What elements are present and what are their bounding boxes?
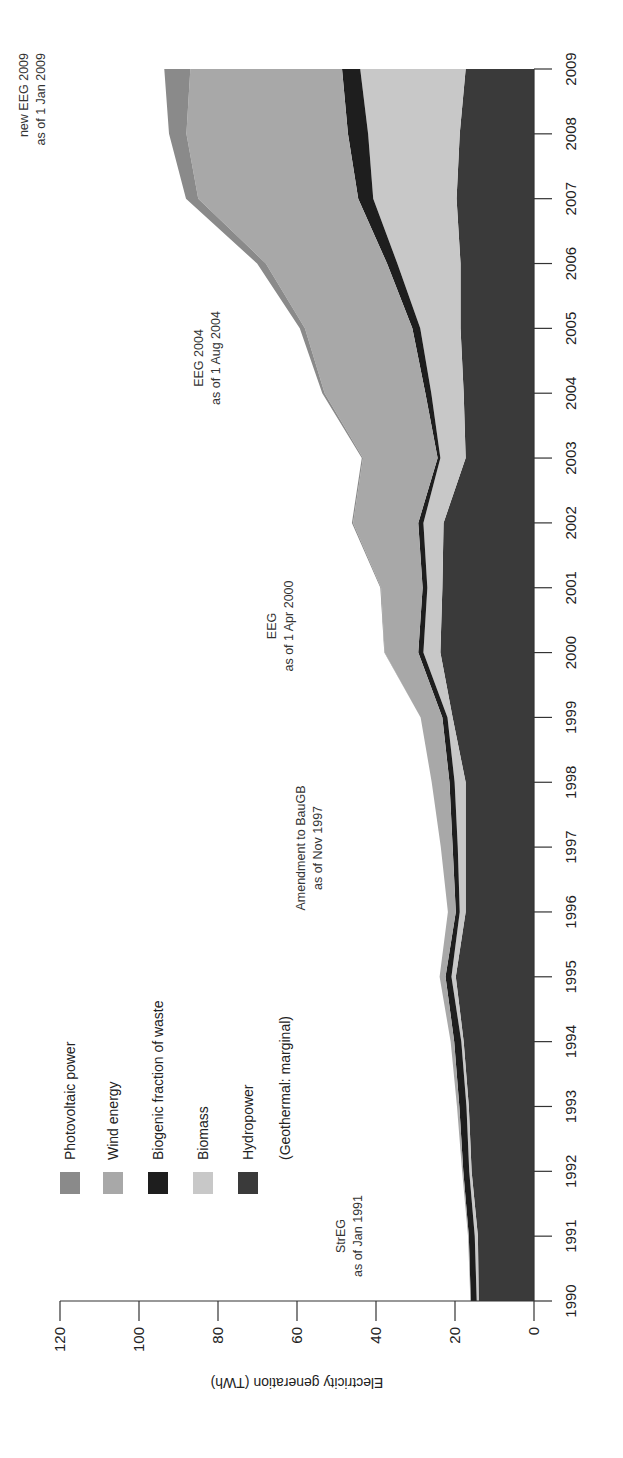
- legend-swatch-biomass: [193, 1172, 213, 1194]
- legend-note-geothermal: (Geothermal: marginal): [277, 1016, 293, 1160]
- year-tick-label: 1996: [562, 895, 579, 928]
- year-tick-label: 1991: [562, 1219, 579, 1252]
- legend-item-biomass: Biomass: [193, 1106, 213, 1194]
- svg-text:as of 1 Jan 2009: as of 1 Jan 2009: [34, 53, 48, 145]
- legend-swatch-wind: [103, 1172, 123, 1194]
- svg-text:as of Nov 1997: as of Nov 1997: [311, 806, 325, 890]
- legend-label-hydropower: Hydropower: [240, 1084, 256, 1160]
- legend-item-wind: Wind energy: [103, 1081, 123, 1194]
- svg-text:EEG: EEG: [265, 613, 279, 639]
- year-tick-label: 2005: [562, 312, 579, 345]
- svg-text:StrEG: StrEG: [334, 1219, 348, 1253]
- legend-swatch-biogenic-waste: [148, 1172, 168, 1194]
- legend-label-biogenic-waste: Biogenic fraction of waste: [150, 1000, 166, 1160]
- value-tick-label: 20: [446, 1327, 463, 1344]
- legend-swatch-photovoltaic: [60, 1172, 80, 1194]
- year-tick-label: 2009: [562, 52, 579, 85]
- year-tick-label: 1990: [562, 1284, 579, 1317]
- annotation-baugb: Amendment to BauGB as of Nov 1997: [294, 785, 325, 910]
- svg-text:new EEG 2009: new EEG 2009: [17, 53, 31, 137]
- value-axis-ticks: 020406080100120: [51, 1301, 542, 1352]
- annotation-new-eeg-2009: new EEG 2009 as of 1 Jan 2009: [17, 53, 48, 145]
- annotation-eeg-2004: EEG 2004 as of 1 Aug 2004: [192, 311, 223, 405]
- chart-svg: 020406080100120 199019911992199319941995…: [0, 0, 623, 1458]
- legend-label-photovoltaic: Photovoltaic power: [62, 1041, 78, 1160]
- legend: Photovoltaic power Wind energy Biogenic …: [60, 1000, 293, 1194]
- rotated-chart-frame: 020406080100120 199019911992199319941995…: [17, 52, 579, 1391]
- svg-text:as of 1 Aug 2004: as of 1 Aug 2004: [209, 311, 223, 405]
- value-tick-label: 60: [288, 1327, 305, 1344]
- value-tick-label: 100: [130, 1327, 147, 1352]
- year-axis-ticks: 1990199119921993199419951996199719981999…: [534, 52, 579, 1317]
- year-tick-label: 1998: [562, 766, 579, 799]
- year-tick-label: 1994: [562, 1025, 579, 1058]
- year-tick-label: 2008: [562, 117, 579, 150]
- year-tick-label: 2000: [562, 636, 579, 669]
- svg-text:EEG 2004: EEG 2004: [192, 329, 206, 387]
- legend-label-wind: Wind energy: [105, 1081, 121, 1160]
- value-tick-label: 0: [525, 1327, 542, 1335]
- year-tick-label: 2006: [562, 247, 579, 280]
- stacked-areas: [164, 69, 534, 1301]
- year-tick-label: 1995: [562, 960, 579, 993]
- svg-text:as of Jan 1991: as of Jan 1991: [351, 1195, 365, 1277]
- svg-text:as of 1 Apr 2000: as of 1 Apr 2000: [282, 580, 296, 671]
- annotation-eeg-2000: EEG as of 1 Apr 2000: [265, 580, 296, 671]
- year-tick-label: 1993: [562, 1090, 579, 1123]
- legend-item-hydropower: Hydropower: [238, 1084, 258, 1194]
- year-tick-label: 1997: [562, 830, 579, 863]
- legend-item-photovoltaic: Photovoltaic power: [60, 1041, 80, 1194]
- year-tick-label: 2003: [562, 441, 579, 474]
- svg-text:Amendment to BauGB: Amendment to BauGB: [294, 785, 308, 910]
- legend-swatch-hydropower: [238, 1172, 258, 1194]
- value-tick-label: 80: [209, 1327, 226, 1344]
- legend-item-biogenic-waste: Biogenic fraction of waste: [148, 1000, 168, 1194]
- legend-label-biomass: Biomass: [195, 1106, 211, 1160]
- year-tick-label: 2007: [562, 182, 579, 215]
- year-tick-label: 1992: [562, 1155, 579, 1188]
- value-tick-label: 40: [367, 1327, 384, 1344]
- year-tick-label: 2004: [562, 377, 579, 410]
- annotation-streg: StrEG as of Jan 1991: [334, 1195, 365, 1277]
- year-tick-label: 1999: [562, 701, 579, 734]
- year-tick-label: 2001: [562, 571, 579, 604]
- chart-container: 020406080100120 199019911992199319941995…: [0, 0, 623, 1458]
- year-tick-label: 2002: [562, 506, 579, 539]
- value-tick-label: 120: [51, 1327, 68, 1352]
- y-axis-title: Electricity generation (TWh): [211, 1375, 384, 1391]
